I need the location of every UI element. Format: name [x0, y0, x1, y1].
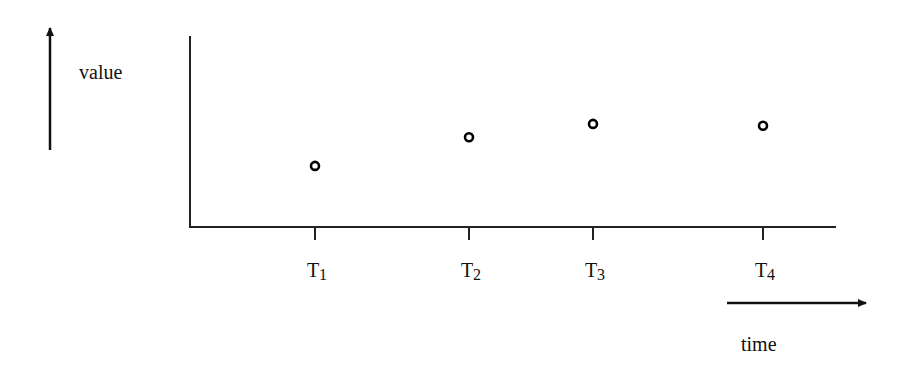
x-tick-label: T1	[307, 260, 327, 283]
x-tick-label: T4	[755, 260, 775, 283]
data-points	[311, 120, 767, 170]
data-point	[465, 133, 473, 141]
x-tick-label: T2	[461, 260, 481, 283]
data-point	[589, 120, 597, 128]
x-tick-label: T3	[585, 260, 605, 283]
data-point	[759, 122, 767, 130]
x-ticks	[315, 227, 763, 240]
chart-canvas	[0, 0, 913, 367]
x-axis-label: time	[741, 334, 777, 354]
data-point	[311, 162, 319, 170]
y-axis-label: value	[79, 62, 122, 82]
